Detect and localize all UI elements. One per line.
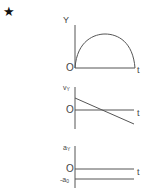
t-axis-label: t	[137, 167, 140, 177]
motion-graphs: Y O t vY O t aY O -a0 t	[0, 0, 147, 193]
position-curve	[75, 34, 135, 68]
origin-label: O	[66, 104, 74, 115]
t-axis-label: t	[137, 65, 140, 75]
vy-axis-label: vY	[63, 84, 71, 92]
velocity-line	[75, 98, 134, 124]
velocity-graph: vY O t	[63, 84, 140, 129]
ay-axis-label: aY	[63, 144, 71, 152]
neg-a0-label: -a0	[60, 176, 69, 184]
position-graph: Y O t	[63, 15, 140, 75]
acceleration-graph: aY O -a0 t	[60, 144, 140, 188]
t-axis-label: t	[137, 108, 140, 118]
origin-label: O	[66, 163, 74, 174]
origin-label: O	[66, 62, 74, 73]
y-axis-label: Y	[63, 15, 69, 25]
